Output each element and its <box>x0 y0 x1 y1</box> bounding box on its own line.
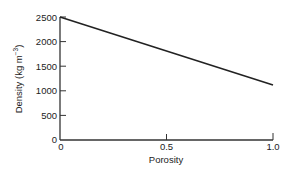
x-ticks <box>167 133 274 140</box>
y-tick-label: 2000 <box>36 36 57 47</box>
y-tick-label: 0 <box>52 134 57 145</box>
x-axis-label: Porosity <box>149 154 184 165</box>
y-tick-label: 500 <box>41 110 57 121</box>
y-tick-label: 2500 <box>36 12 57 23</box>
y-axis-label: Density (kg m−3) <box>12 45 24 114</box>
x-tick-label: 1.0 <box>266 141 279 152</box>
x-tick-label: 0 <box>58 141 63 152</box>
y-ticks <box>60 17 66 115</box>
y-tick-label: 1000 <box>36 85 57 96</box>
density-line <box>60 17 273 85</box>
density-porosity-chart: 2500 2000 1500 1000 500 0 0 0.5 1.0 Poro… <box>0 0 296 174</box>
x-tick-label: 0.5 <box>160 141 173 152</box>
y-tick-label: 1500 <box>36 61 57 72</box>
